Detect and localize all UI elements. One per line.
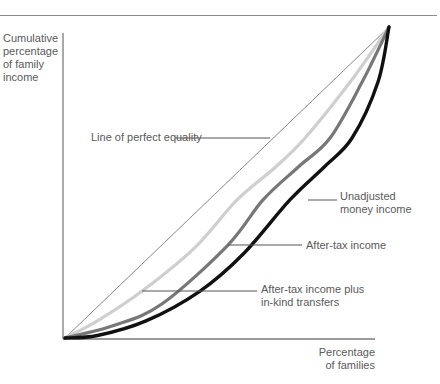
x-axis-label: Percentage of families — [300, 346, 375, 372]
label-after-tax: After-tax income — [306, 239, 386, 252]
label-unadjusted-line: Unadjusted — [340, 190, 412, 203]
label-in-kind-line: in-kind transfers — [261, 296, 364, 309]
label-perfect-equality: Line of perfect equality — [91, 131, 202, 144]
label-unadjusted-line: money income — [340, 203, 412, 216]
label-in-kind-line: After-tax income plus — [261, 283, 364, 296]
label-unadjusted: Unadjusted money income — [340, 190, 412, 216]
label-in-kind: After-tax income plus in-kind transfers — [261, 283, 364, 309]
x-axis-label-line: of families — [300, 359, 375, 372]
x-axis-label-line: Percentage — [300, 346, 375, 359]
